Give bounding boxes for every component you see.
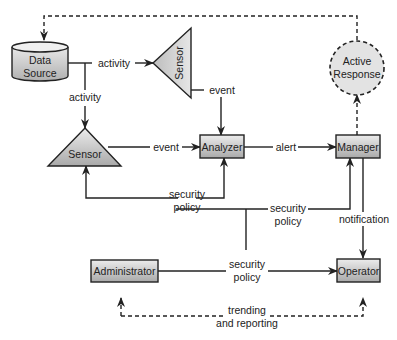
dashed-feedback-top xyxy=(44,16,357,40)
edge-policy-sensor xyxy=(86,166,178,198)
label-trending-1: trending xyxy=(228,304,266,316)
label-activity-down: activity xyxy=(69,91,102,103)
node-operator: Operator xyxy=(337,259,380,282)
node-active-response: Active Response xyxy=(330,41,384,95)
active-response-label-2: Response xyxy=(333,68,380,80)
label-activity-right: activity xyxy=(98,57,131,69)
label-alert: alert xyxy=(276,141,297,153)
node-manager: Manager xyxy=(336,135,380,158)
data-source-label-1: Data xyxy=(29,54,51,66)
sensor-top-label: Sensor xyxy=(173,46,185,80)
edge-labels: activity activity event event alert secu… xyxy=(69,57,389,329)
active-response-label-1: Active xyxy=(343,55,372,67)
label-policy-operator-2: policy xyxy=(234,271,262,283)
label-policy-sensor-2: policy xyxy=(174,201,202,213)
data-source-label-2: Source xyxy=(23,67,56,79)
label-policy-manager-1: security xyxy=(270,202,307,214)
label-policy-manager-2: policy xyxy=(275,215,303,227)
label-notification: notification xyxy=(339,213,389,225)
node-administrator: Administrator xyxy=(91,260,158,282)
manager-label: Manager xyxy=(337,141,379,153)
node-sensor-top: Sensor xyxy=(153,28,191,98)
label-policy-operator-1: security xyxy=(229,258,266,270)
sensor-bottom-label: Sensor xyxy=(68,148,102,160)
operator-label: Operator xyxy=(338,265,380,277)
node-analyzer: Analyzer xyxy=(200,135,244,158)
label-trending-2: and reporting xyxy=(216,317,278,329)
label-event-top: event xyxy=(209,84,235,96)
node-data-source: Data Source xyxy=(12,42,68,81)
analyzer-label: Analyzer xyxy=(202,141,243,153)
ids-architecture-diagram: Data Source Sensor Sensor Analyzer Manag… xyxy=(0,0,397,340)
administrator-label: Administrator xyxy=(94,265,156,277)
label-event-bottom: event xyxy=(153,141,179,153)
label-policy-sensor-1: security xyxy=(169,188,206,200)
